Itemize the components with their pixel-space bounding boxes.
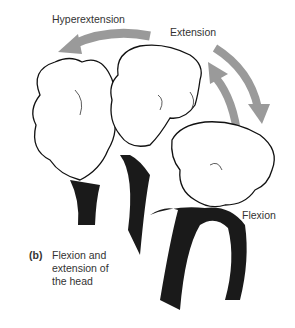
- caption-line-3: the head: [52, 275, 93, 288]
- flexion-label: Flexion: [242, 209, 276, 221]
- hyperextension-label: Hyperextension: [52, 13, 125, 25]
- caption-tag: (b): [29, 249, 42, 262]
- head-motion-illustration: [0, 0, 295, 328]
- extension-label: Extension: [170, 26, 216, 38]
- caption-line-2: extension of: [52, 262, 109, 275]
- caption-line-1: Flexion and: [52, 249, 106, 262]
- figure-hyperextension: [33, 59, 115, 226]
